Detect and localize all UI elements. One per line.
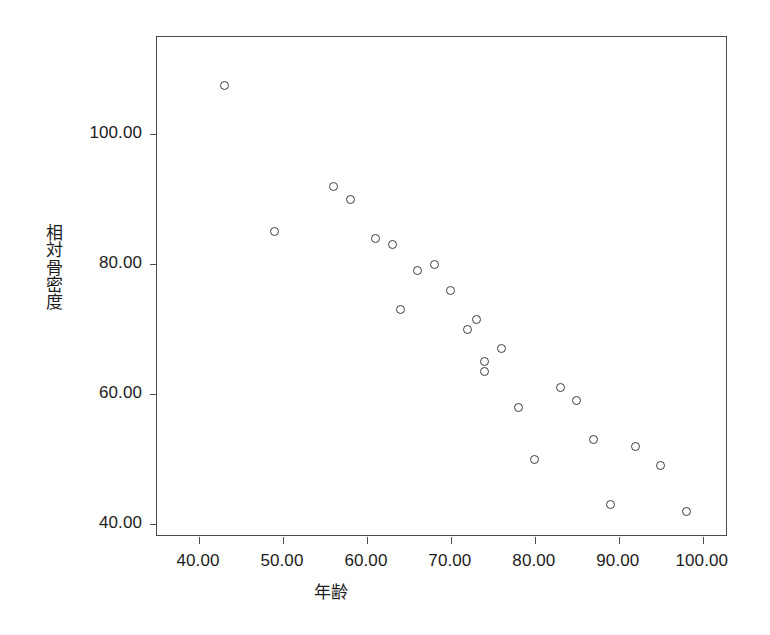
x-axis-tick	[451, 537, 452, 544]
x-axis-tick	[283, 537, 284, 544]
y-axis-title: 相対骨密度	[42, 225, 66, 312]
data-point	[346, 195, 355, 204]
x-axis-tick	[619, 537, 620, 544]
data-point	[556, 383, 565, 392]
y-axis-title-char: 度	[42, 294, 66, 311]
y-axis-title-char: 相	[42, 225, 66, 242]
x-axis-tick-label: 90.00	[596, 551, 639, 571]
x-axis-tick-labels: 40.0050.0060.0070.0080.0090.00100.00	[156, 551, 727, 577]
x-axis-tick-label: 80.00	[512, 551, 555, 571]
data-point	[480, 367, 489, 376]
x-axis-tick-label: 70.00	[428, 551, 471, 571]
y-axis-tick-labels: 40.0060.0080.00100.00	[0, 36, 142, 536]
x-axis-tick-label: 60.00	[344, 551, 387, 571]
y-axis-tick	[150, 264, 157, 265]
data-point	[270, 227, 279, 236]
y-axis-tick	[150, 134, 157, 135]
data-point	[631, 442, 640, 451]
scatter-chart: 40.0060.0080.00100.00 相対骨密度 40.0050.0060…	[0, 0, 770, 635]
y-axis-tick	[150, 394, 157, 395]
data-point	[514, 403, 523, 412]
x-axis-tick	[535, 537, 536, 544]
y-axis-tick	[150, 524, 157, 525]
data-point	[430, 260, 439, 269]
y-axis-tick-label: 100.00	[89, 123, 142, 143]
data-point	[371, 234, 380, 243]
data-point	[413, 266, 422, 275]
data-point	[682, 507, 691, 516]
x-axis-tick	[703, 537, 704, 544]
x-axis-tick	[367, 537, 368, 544]
data-point	[329, 182, 338, 191]
data-point	[497, 344, 506, 353]
x-axis-tick-label: 40.00	[176, 551, 219, 571]
data-point	[396, 305, 405, 314]
x-axis-tick-label: 100.00	[675, 551, 728, 571]
data-point	[656, 461, 665, 470]
x-axis-title: 年齢	[0, 578, 770, 603]
y-axis-tick-label: 60.00	[99, 383, 142, 403]
data-point	[220, 81, 229, 90]
data-point	[480, 357, 489, 366]
y-axis-tick-label: 80.00	[99, 253, 142, 273]
y-axis-title-char: 対	[42, 242, 66, 259]
y-axis-title-char: 密	[42, 277, 66, 294]
data-point	[530, 455, 539, 464]
x-axis-tick	[199, 537, 200, 544]
data-point	[572, 396, 581, 405]
x-axis-tick-label: 50.00	[260, 551, 303, 571]
data-point	[446, 286, 455, 295]
data-point	[463, 325, 472, 334]
data-point	[472, 315, 481, 324]
data-point	[589, 435, 598, 444]
plot-area	[156, 36, 727, 536]
data-point	[388, 240, 397, 249]
y-axis-tick-label: 40.00	[99, 513, 142, 533]
data-point	[606, 500, 615, 509]
y-axis-title-char: 骨	[42, 260, 66, 277]
